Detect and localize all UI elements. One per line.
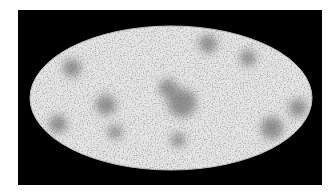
sky-map [18,10,322,185]
sky-map-frame [18,10,322,185]
